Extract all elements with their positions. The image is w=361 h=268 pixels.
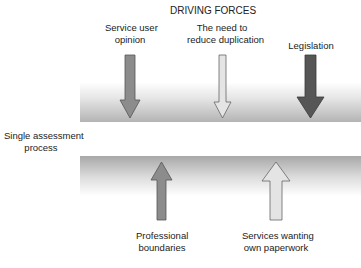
arrow-down-icon: [214, 55, 231, 118]
label-line: Professional: [136, 230, 188, 242]
force-arrows: [0, 0, 361, 268]
arrow-down-icon: [120, 55, 140, 118]
label-professional-boundaries: Professional boundaries: [136, 230, 188, 254]
label-services-own-paperwork: Services wanting own paperwork: [242, 230, 310, 254]
label-line: Services wanting: [242, 230, 310, 242]
label-line: boundaries: [136, 242, 188, 254]
arrow-up-icon: [151, 162, 172, 220]
arrow-up-icon: [262, 162, 290, 220]
label-line: own paperwork: [242, 242, 310, 254]
arrow-down-icon: [297, 55, 324, 118]
